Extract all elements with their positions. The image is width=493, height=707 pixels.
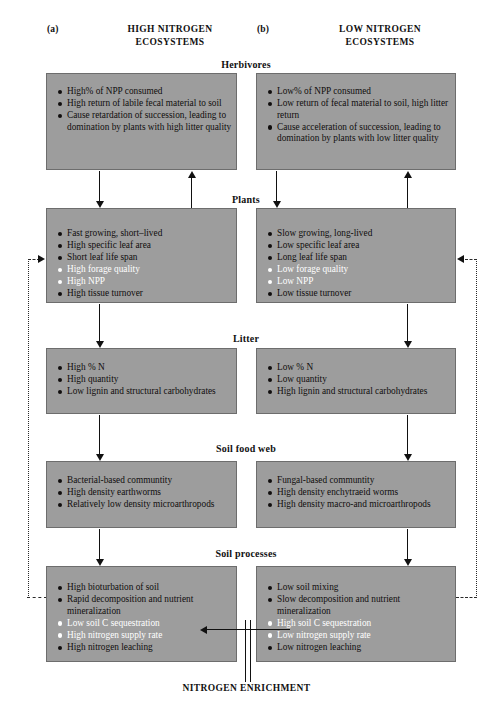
bullet-icon (268, 378, 272, 382)
arrow-head-down-icon (96, 201, 104, 208)
bullet-icon (268, 244, 272, 248)
arrow-line-litter-to-soil-food-web-left (99, 415, 100, 455)
bullet-icon (58, 102, 62, 106)
arrow-head-right-icon (38, 255, 45, 263)
list-item: High return of labile fecal material to … (58, 98, 234, 110)
arrow-line-plants-to-litter-left (99, 304, 100, 342)
bullet-icon (58, 586, 62, 590)
bullet-icon (58, 244, 62, 248)
list-item-text: Cause retardation of succession, leading… (67, 110, 231, 132)
list-item: High% of NPP consumed (58, 86, 234, 98)
bullet-icon (268, 586, 272, 590)
list-item: High nitrogen leaching (58, 642, 234, 654)
list-item-text: Low % N (277, 362, 313, 372)
bullet-icon (268, 256, 272, 260)
list-item: Fungal-based communtity (268, 475, 453, 487)
bullet-icon (58, 646, 62, 650)
feedback-dash-right-top (465, 259, 477, 260)
list-item-text: Low specific leaf area (277, 240, 359, 250)
bullet-icon (58, 378, 62, 382)
list-item-text: High bioturbation of soil (67, 582, 159, 592)
box-plants-low-nitrogen: Slow growing, long-lived Low specific le… (256, 208, 456, 303)
box-herbivores-high-nitrogen: High% of NPP consumed High return of lab… (46, 73, 237, 170)
arrow-line-plants-to-herbivores-left (191, 177, 192, 208)
list-item: High forage quality (58, 264, 234, 276)
list-item-text: Low quantity (277, 374, 327, 384)
list-item: Low return of fecal material to soil, hi… (268, 98, 453, 121)
list-item: High density macro-and microarthropods (268, 499, 453, 511)
list-item-text: Low forage quality (277, 264, 348, 274)
arrow-line-soil-food-web-to-soil-processes-right (407, 529, 408, 561)
box-soil-food-web-high-nitrogen: Bacterial-based communtity High density … (46, 461, 237, 528)
bullet-icon (268, 280, 272, 284)
list-item-text: High return of labile fecal material to … (67, 98, 222, 108)
bullet-list: Slow growing, long-lived Low specific le… (268, 228, 453, 301)
bullet-icon (58, 503, 62, 507)
list-item-text: High density earthworms (67, 487, 161, 497)
list-item: High lignin and structural carbohydrates (268, 386, 453, 398)
list-item: Low soil mixing (268, 582, 453, 594)
bullet-list: Low% of NPP consumed Low return of fecal… (268, 86, 453, 145)
column-title-a-line2: ECOSYSTEMS (90, 36, 250, 49)
bullet-icon (58, 633, 62, 637)
column-title-b: LOW NITROGEN ECOSYSTEMS (300, 23, 460, 49)
bullet-icon (58, 268, 62, 272)
list-item: Low nitrogen supply rate (268, 630, 453, 642)
arrow-head-down-icon (404, 341, 412, 348)
bullet-icon (58, 366, 62, 370)
list-item-text: High density macro-and microarthropods (277, 499, 431, 509)
list-item-text: High density enchytraeid worms (277, 487, 398, 497)
list-item: Bacterial-based communtity (58, 475, 234, 487)
bullet-icon (58, 390, 62, 394)
arrow-head-down-icon (404, 454, 412, 461)
list-item: Short leaf life span (58, 252, 234, 264)
arrow-head-left-icon (200, 626, 207, 634)
list-item-text: Low% of NPP consumed (277, 86, 371, 96)
list-item: High nitrogen supply rate (58, 630, 234, 642)
arrow-head-down-icon (96, 559, 104, 566)
box-soil-food-web-low-nitrogen: Fungal-based communtity High density enc… (256, 461, 456, 528)
feedback-dash-right-vertical (476, 259, 477, 598)
box-litter-high-nitrogen: High % N High quantity Low lignin and st… (46, 348, 237, 414)
arrow-head-down-icon (96, 341, 104, 348)
bullet-list: Fast growing, short–lived High specific … (58, 228, 234, 301)
list-item: Relatively low density microarthropods (58, 499, 234, 511)
list-item: Low soil C sequestration (58, 618, 234, 630)
list-item-text: Short leaf life span (67, 252, 137, 262)
bullet-icon (58, 256, 62, 260)
list-item: High NPP (58, 276, 234, 288)
list-item: Rapid decomposition and nutrient mineral… (58, 594, 234, 617)
list-item: Cause acceleration of succession, leadin… (268, 122, 453, 145)
bullet-icon (268, 268, 272, 272)
bullet-icon (268, 479, 272, 483)
list-item: High density earthworms (58, 487, 234, 499)
list-item-text: High forage quality (67, 264, 140, 274)
list-item-text: Long leaf life span (277, 252, 347, 262)
arrow-head-up-icon (188, 171, 196, 178)
feedback-dash-left-bottom (27, 597, 47, 598)
bullet-icon (268, 491, 272, 495)
footer-nitrogen-enrichment-label: NITROGEN ENRICHMENT (0, 683, 493, 693)
list-item: Long leaf life span (268, 252, 453, 264)
arrow-head-left-icon (457, 255, 464, 263)
column-tag-a: (a) (47, 24, 59, 34)
list-item-text: Low return of fecal material to soil, hi… (277, 98, 448, 120)
list-item-text: Rapid decomposition and nutrient mineral… (67, 594, 193, 616)
bullet-icon (268, 102, 272, 106)
list-item-text: High tissue turnover (67, 288, 143, 298)
arrow-head-down-icon (96, 454, 104, 461)
bullet-icon (58, 292, 62, 296)
feedback-dash-left-vertical (28, 259, 29, 598)
list-item-text: Low soil C sequestration (67, 618, 160, 628)
figure-canvas: (a) HIGH NITROGEN ECOSYSTEMS (b) LOW NIT… (0, 0, 493, 707)
arrow-line-herbivores-to-plants-right (276, 171, 277, 202)
list-item: Low quantity (268, 374, 453, 386)
list-item-text: High nitrogen supply rate (67, 630, 162, 640)
list-item: Low nitrogen leaching (268, 642, 453, 654)
list-item-text: Low lignin and structural carbohydrates (67, 386, 216, 396)
list-item-text: High soil C sequestration (277, 618, 371, 628)
box-litter-low-nitrogen: Low % N Low quantity High lignin and str… (256, 348, 456, 414)
arrow-line-plants-to-herbivores-right (407, 177, 408, 208)
column-title-a-line1: HIGH NITROGEN (90, 23, 250, 36)
bullet-icon (58, 598, 62, 602)
